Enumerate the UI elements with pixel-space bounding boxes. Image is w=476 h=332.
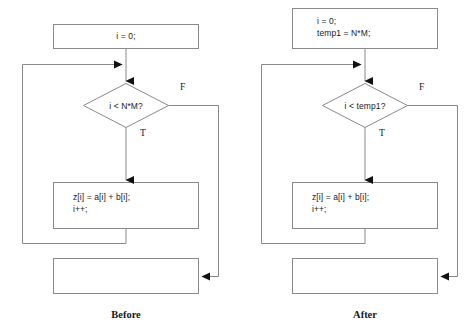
after-init-box-line-1: i = 0; — [317, 16, 336, 27]
before-exit-box-shape — [54, 259, 199, 294]
before-false-branch-label: F — [180, 82, 185, 92]
before-body-box-line-1: z[i] = a[i] + b[i]; — [73, 192, 130, 203]
after-decision-text: i < temp1? — [345, 101, 386, 112]
after-init-box-line-2: temp1 = N*M; — [317, 28, 370, 39]
before-decision-text: i < N*M? — [109, 101, 143, 112]
flowchart-vector-layer — [0, 0, 476, 332]
after-body-box-line-2: i++; — [312, 204, 327, 215]
before-init-box-text: i = 0; — [116, 31, 135, 42]
after-true-branch-label: T — [379, 128, 385, 138]
before-caption: Before — [111, 309, 141, 320]
after-false-branch-label: F — [419, 82, 424, 92]
before-body-box-line-2: i++; — [73, 204, 88, 215]
before-true-branch-label: T — [140, 128, 146, 138]
after-body-box-line-1: z[i] = a[i] + b[i]; — [312, 192, 369, 203]
panel-after-shapes — [262, 9, 458, 294]
after-exit-box-shape — [293, 259, 438, 294]
panel-before-shapes — [23, 25, 219, 294]
after-caption: After — [353, 309, 377, 320]
flowchart-comparison-figure: i = 0; i < N*M? F T z[i] = a[i] + b[i]; … — [0, 0, 476, 332]
